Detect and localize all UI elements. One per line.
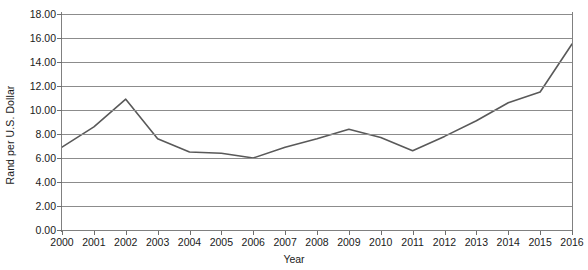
y-axis-tick-mark xyxy=(57,38,62,39)
y-axis-tick-labels: 0.002.004.006.008.0010.0012.0014.0016.00… xyxy=(18,0,56,270)
x-axis-tick-label: 2012 xyxy=(433,236,456,248)
gridline xyxy=(62,182,572,183)
y-axis-tick-label: 2.00 xyxy=(18,200,56,212)
gridline xyxy=(62,38,572,39)
x-axis-tick-label: 2008 xyxy=(305,236,328,248)
x-axis-tick-label: 2013 xyxy=(465,236,488,248)
y-axis-tick-label: 8.00 xyxy=(18,128,56,140)
gridline xyxy=(62,110,572,111)
y-axis-tick-mark xyxy=(57,14,62,15)
gridline xyxy=(62,158,572,159)
gridline xyxy=(62,206,572,207)
y-axis-tick-label: 10.00 xyxy=(18,104,56,116)
gridline xyxy=(62,86,572,87)
line-chart: Rand per U.S. Dollar 0.002.004.006.008.0… xyxy=(0,0,588,270)
y-axis-tick-label: 6.00 xyxy=(18,152,56,164)
y-axis-tick-mark xyxy=(57,158,62,159)
x-axis-tick-label: 2004 xyxy=(178,236,201,248)
x-axis-tick-label: 2005 xyxy=(210,236,233,248)
data-series-line xyxy=(62,14,572,230)
y-axis-tick-mark xyxy=(57,134,62,135)
x-axis-tick-label: 2016 xyxy=(560,236,583,248)
y-axis-tick-label: 18.00 xyxy=(18,8,56,20)
x-axis-line xyxy=(62,230,572,231)
y-axis-tick-mark xyxy=(57,206,62,207)
x-axis-tick-label: 2007 xyxy=(273,236,296,248)
gridline xyxy=(62,62,572,63)
y-axis-tick-label: 14.00 xyxy=(18,56,56,68)
plot-right-border xyxy=(572,12,573,232)
x-axis-tick-label: 2003 xyxy=(146,236,169,248)
y-axis-tick-label: 4.00 xyxy=(18,176,56,188)
gridline xyxy=(62,134,572,135)
x-axis-tick-label: 2002 xyxy=(114,236,137,248)
gridline xyxy=(62,14,572,15)
x-axis-tick-label: 2010 xyxy=(369,236,392,248)
x-axis-tick-label: 2009 xyxy=(337,236,360,248)
y-axis-tick-mark xyxy=(57,86,62,87)
y-axis-tick-label: 0.00 xyxy=(18,224,56,236)
y-axis-tick-label: 12.00 xyxy=(18,80,56,92)
y-axis-tick-mark xyxy=(57,182,62,183)
x-axis-tick-label: 2000 xyxy=(50,236,73,248)
x-axis-tick-label: 2015 xyxy=(528,236,551,248)
plot-area xyxy=(62,14,572,230)
x-axis-tick-label: 2011 xyxy=(401,236,424,248)
x-axis-tick-label: 2014 xyxy=(497,236,520,248)
x-axis-tick-mark xyxy=(572,230,573,235)
x-axis-tick-labels: 2000200120022003200420052006200720082009… xyxy=(0,236,588,252)
y-axis-tick-mark xyxy=(57,110,62,111)
x-axis-tick-label: 2006 xyxy=(242,236,265,248)
y-axis-title: Rand per U.S. Dollar xyxy=(2,0,18,270)
y-axis-tick-label: 16.00 xyxy=(18,32,56,44)
x-axis-title: Year xyxy=(0,253,588,265)
y-axis-tick-mark xyxy=(57,62,62,63)
x-axis-tick-label: 2001 xyxy=(82,236,105,248)
